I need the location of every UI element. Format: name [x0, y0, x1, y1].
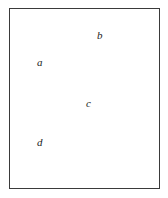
point-label-b: b: [97, 30, 103, 41]
point-label-a: a: [37, 57, 43, 68]
plot-area: b a c d: [10, 9, 159, 188]
figure-panel: b a c d: [0, 0, 168, 198]
plot-border: b a c d: [9, 8, 160, 189]
point-label-d: d: [37, 137, 43, 148]
point-label-c: c: [86, 98, 91, 109]
